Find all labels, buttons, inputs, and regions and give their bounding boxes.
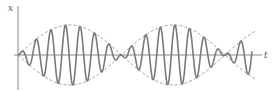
horizontal-axis-label: t: [264, 51, 268, 60]
beats-plot: [0, 0, 273, 92]
vertical-axis-label: x: [8, 4, 13, 13]
